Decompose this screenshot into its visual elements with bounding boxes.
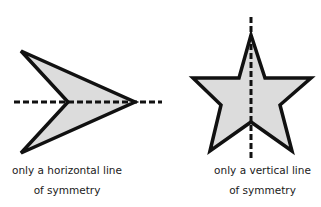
arrowhead-caption: only a horizontal line of symmetry: [7, 160, 127, 200]
star-caption-line2: of symmetry: [200, 180, 321, 200]
arrowhead-caption-line2: of symmetry: [7, 180, 127, 200]
arrowhead-caption-line1: only a horizontal line: [7, 160, 127, 180]
star-caption: only a vertical line of symmetry: [200, 160, 321, 200]
star-caption-line1: only a vertical line: [200, 160, 321, 180]
